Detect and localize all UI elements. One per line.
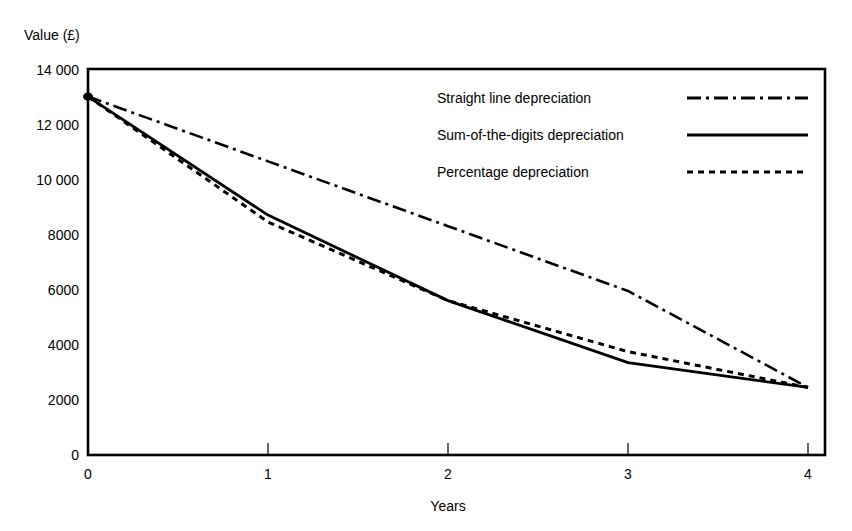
x-tick-label-0: 0 xyxy=(84,466,92,482)
x-tick-label-3: 3 xyxy=(624,466,632,482)
series-start-marker xyxy=(83,93,93,101)
x-tick-label-1: 1 xyxy=(264,466,272,482)
y-tick-label-12000: 12 000 xyxy=(36,117,79,133)
y-tick-label-4000: 4000 xyxy=(48,337,79,353)
legend: Straight line depreciation Sum-of-the-di… xyxy=(437,90,808,180)
y-tick-label-8000: 8000 xyxy=(48,227,79,243)
legend-label-straight-line: Straight line depreciation xyxy=(437,90,591,106)
legend-label-percentage: Percentage depreciation xyxy=(437,164,589,180)
y-tick-label-2000: 2000 xyxy=(48,392,79,408)
depreciation-chart: Value (£) 14 000 12 000 10 000 8000 6000… xyxy=(0,0,852,531)
y-axis-title: Value (£) xyxy=(24,27,80,43)
y-tick-label-14000: 14 000 xyxy=(36,62,79,78)
y-tick-label-6000: 6000 xyxy=(48,282,79,298)
y-tick-label-10000: 10 000 xyxy=(36,172,79,188)
y-tick-label-0: 0 xyxy=(71,447,79,463)
x-axis-title: Years xyxy=(430,498,465,514)
legend-label-sum-of-the-digits: Sum-of-the-digits depreciation xyxy=(437,127,624,143)
x-tick-label-2: 2 xyxy=(444,466,452,482)
chart-canvas: Value (£) 14 000 12 000 10 000 8000 6000… xyxy=(0,0,852,531)
x-tick-label-4: 4 xyxy=(804,466,812,482)
